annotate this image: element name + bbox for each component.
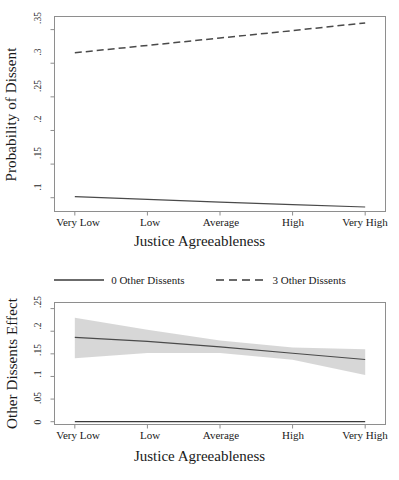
y-axis-label-bottom: Other Dissents Effect [3, 298, 20, 429]
x-tick-label-bottom-0: Very Low [56, 429, 100, 441]
x-axis-label-bottom: Justice Agreeableness [0, 448, 399, 465]
y-tick-label-top-0: .35 [33, 4, 43, 32]
x-tick-label-bottom-2: Average [203, 429, 239, 441]
y-tick-label-top-2: .25 [33, 72, 43, 100]
plot-area-bottom [0, 258, 399, 438]
x-tick-label-top-2: Average [203, 216, 239, 228]
figure: Probability of Dissent .35 .3 .25 .2 .15… [0, 0, 399, 480]
y-tick-label-top-4: .15 [33, 139, 43, 167]
y-tick-label-top-1: .3 [33, 38, 43, 66]
x-tick-label-bottom-4: Very High [342, 429, 388, 441]
plot-box-top [55, 17, 386, 212]
x-tick-label-top-4: Very High [342, 216, 388, 228]
y-tick-label-top-5: .1 [33, 173, 43, 201]
axis-ticks-top [51, 30, 366, 216]
x-tick-label-bottom-1: Low [140, 429, 160, 441]
x-tick-label-bottom-3: High [282, 429, 304, 441]
x-tick-label-top-1: Low [140, 216, 160, 228]
series-line-3-other-dissents [75, 23, 365, 53]
x-axis-label-top: Justice Agreeableness [0, 233, 399, 250]
y-tick-label-bottom-5: 0 [33, 408, 43, 436]
x-tick-label-top-0: Very Low [56, 216, 100, 228]
y-axis-label-top: Probability of Dissent [3, 47, 20, 181]
x-tick-label-top-3: High [282, 216, 304, 228]
y-tick-label-top-3: .2 [33, 105, 43, 133]
panel-other-dissents-effect: Other Dissents Effect .25 .2 .15 .1 .05 … [0, 258, 399, 480]
series-line-0-other-dissents [75, 197, 365, 207]
panel-probability-of-dissent: Probability of Dissent .35 .3 .25 .2 .15… [0, 0, 399, 258]
plot-area-top [0, 0, 399, 230]
